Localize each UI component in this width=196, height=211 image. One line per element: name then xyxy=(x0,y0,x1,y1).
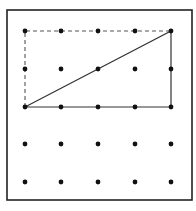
grid-dot xyxy=(23,67,28,72)
grid-dot xyxy=(133,67,138,72)
grid-dot xyxy=(169,180,174,185)
board-frame xyxy=(7,10,192,200)
grid-dot xyxy=(96,29,101,34)
geoboard-canvas xyxy=(0,0,196,211)
grid-dot xyxy=(59,105,64,110)
grid-dot xyxy=(23,29,28,34)
grid-dot xyxy=(59,180,64,185)
grid-dot xyxy=(133,29,138,34)
grid-dot xyxy=(23,105,28,110)
grid-dot xyxy=(96,105,101,110)
grid-dot xyxy=(96,180,101,185)
grid-dot xyxy=(23,142,28,147)
grid-dot xyxy=(23,180,28,185)
grid-dot xyxy=(96,142,101,147)
grid-dot xyxy=(133,142,138,147)
grid-dot xyxy=(59,142,64,147)
grid-dot xyxy=(169,67,174,72)
grid-dot xyxy=(169,105,174,110)
grid-dot xyxy=(133,180,138,185)
grid-dot xyxy=(59,67,64,72)
grid-dot xyxy=(96,67,101,72)
grid-dot xyxy=(169,142,174,147)
geoboard-diagram xyxy=(0,0,196,211)
grid-dot xyxy=(169,29,174,34)
grid-dot xyxy=(59,29,64,34)
grid-dot xyxy=(133,105,138,110)
